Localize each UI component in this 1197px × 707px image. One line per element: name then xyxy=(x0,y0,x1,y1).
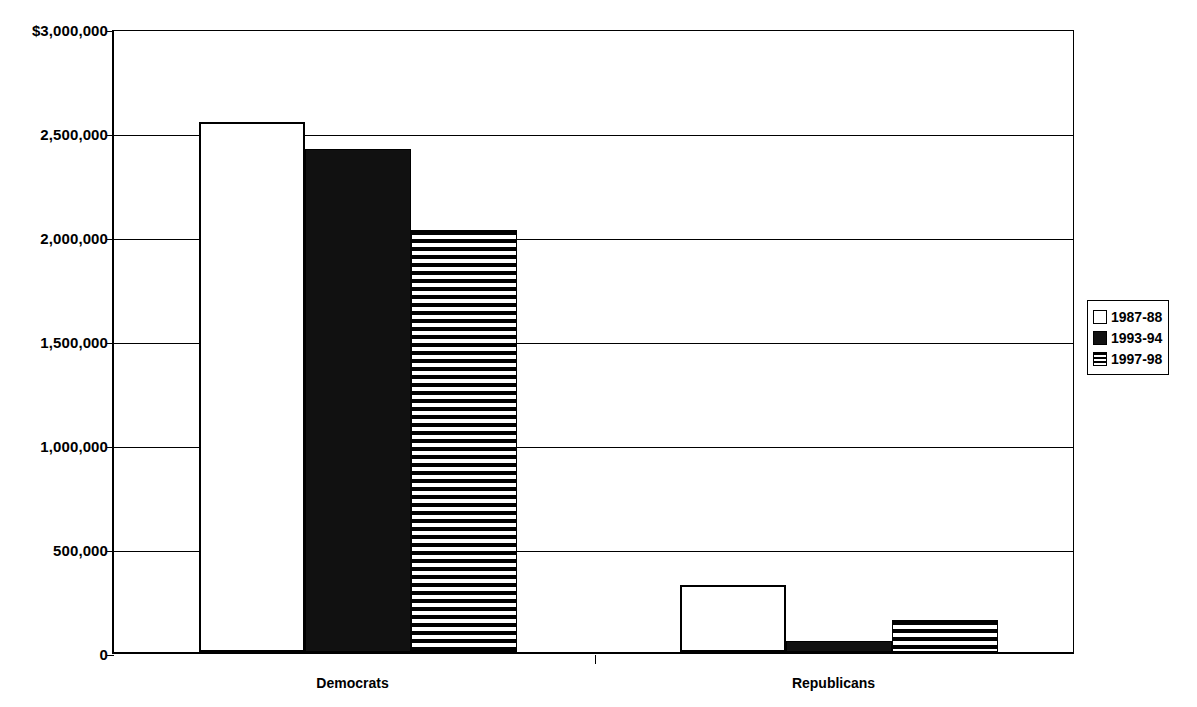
y-axis-tick xyxy=(107,31,114,32)
legend-swatch-icon xyxy=(1093,310,1107,324)
y-axis-label-group: $3,000,0002,500,0002,000,0001,500,0001,0… xyxy=(0,0,108,707)
legend-item: 1997-98 xyxy=(1093,348,1162,369)
legend-item: 1993-94 xyxy=(1093,327,1162,348)
legend: 1987-881993-941997-98 xyxy=(1087,300,1169,375)
y-axis-tick xyxy=(107,551,114,552)
x-axis-tick xyxy=(595,655,596,664)
bar xyxy=(411,230,517,652)
y-axis-tick-label: $3,000,000 xyxy=(4,23,108,38)
y-axis-tick-label: 1,000,000 xyxy=(4,439,108,454)
y-axis-tick-label: 2,500,000 xyxy=(4,127,108,142)
x-axis-category-label: Republicans xyxy=(792,676,875,690)
y-axis-tick xyxy=(107,135,114,136)
bar xyxy=(786,641,892,652)
legend-item-label: 1987-88 xyxy=(1111,310,1162,324)
x-axis-category-label: Democrats xyxy=(316,676,388,690)
bar-chart: $3,000,0002,500,0002,000,0001,500,0001,0… xyxy=(0,0,1197,707)
bar xyxy=(305,149,411,652)
legend-swatch-icon xyxy=(1093,352,1107,366)
y-axis-tick xyxy=(107,447,114,448)
y-axis-tick-label: 500,000 xyxy=(4,543,108,558)
bar xyxy=(892,620,998,652)
legend-item-label: 1997-98 xyxy=(1111,352,1162,366)
legend-swatch-icon xyxy=(1093,331,1107,345)
legend-item-label: 1993-94 xyxy=(1111,331,1162,345)
y-axis-tick xyxy=(107,655,114,656)
plot-area xyxy=(112,30,1074,654)
y-axis-tick xyxy=(107,343,114,344)
bar xyxy=(199,122,305,652)
y-axis-tick-label: 1,500,000 xyxy=(4,335,108,350)
y-axis-tick xyxy=(107,239,114,240)
bar xyxy=(680,585,786,652)
legend-item: 1987-88 xyxy=(1093,306,1162,327)
y-axis-tick-label: 0 xyxy=(4,647,108,662)
bar-group xyxy=(114,31,1073,652)
y-axis-tick-label: 2,000,000 xyxy=(4,231,108,246)
